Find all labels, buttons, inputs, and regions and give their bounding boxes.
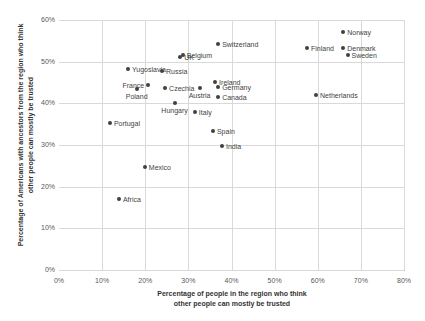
data-point-canada[interactable] (216, 95, 220, 99)
data-point-label-netherlands: Netherlands (320, 92, 358, 99)
data-point-sweden[interactable] (346, 53, 350, 57)
data-point-label-norway: Norway (347, 29, 371, 36)
data-point-mexico[interactable] (143, 165, 147, 169)
y-axis-title-line2: other people can mostly be trusted (26, 10, 36, 260)
data-point-finland[interactable] (305, 46, 309, 50)
data-point-india[interactable] (220, 144, 224, 148)
data-point-label-italy: Italy (199, 109, 212, 116)
x-tick-label: 10% (89, 277, 115, 284)
data-point-ireland[interactable] (213, 80, 217, 84)
x-tick-label: 50% (262, 277, 288, 284)
data-point-spain[interactable] (211, 129, 215, 133)
data-point-netherlands[interactable] (314, 93, 318, 97)
data-point-label-spain: Spain (217, 127, 235, 134)
data-point-austria[interactable] (198, 86, 202, 90)
data-point-label-germany: Germany (222, 84, 251, 91)
data-point-label-russia: Russia (166, 67, 187, 74)
data-point-denmark[interactable] (341, 46, 345, 50)
data-point-hungary[interactable] (173, 101, 177, 105)
data-point-label-switzerland: Switzerland (222, 41, 258, 48)
data-point-label-poland: Poland (126, 93, 148, 100)
x-axis-title-line2: other people can mostly be trusted (59, 299, 405, 309)
gridline-vertical (102, 20, 103, 270)
data-point-germany[interactable] (216, 85, 220, 89)
data-point-label-czechia: Czechia (169, 84, 194, 91)
gridline-vertical (145, 20, 146, 270)
data-point-label-austria: Austria (189, 92, 211, 99)
x-tick-label: 60% (305, 277, 331, 284)
data-point-portugal[interactable] (108, 121, 112, 125)
scatter-chart: NorwayFinlandDenmarkSwedenSwitzerlandBel… (0, 0, 425, 321)
data-point-label-uk: UK (184, 54, 194, 61)
x-axis-title-line1: Percentage of people in the region who t… (59, 289, 405, 299)
data-point-label-canada: Canada (222, 94, 247, 101)
x-axis-title: Percentage of people in the region who t… (59, 289, 405, 309)
data-point-africa[interactable] (117, 197, 121, 201)
y-axis-title: Percentage of Americans with ancestors f… (16, 10, 36, 260)
data-point-poland[interactable] (135, 87, 139, 91)
data-point-czechia[interactable] (163, 86, 167, 90)
data-point-france[interactable] (146, 83, 150, 87)
x-tick-label: 30% (175, 277, 201, 284)
data-point-label-portugal: Portugal (114, 119, 140, 126)
x-tick-label: 20% (132, 277, 158, 284)
data-point-label-india: India (226, 142, 241, 149)
gridline-vertical (318, 20, 319, 270)
data-point-label-hungary: Hungary (161, 107, 187, 114)
data-point-label-france: France (122, 82, 144, 89)
data-point-yugoslavia[interactable] (126, 67, 130, 71)
data-point-italy[interactable] (193, 110, 197, 114)
gridline-horizontal (59, 270, 404, 271)
data-point-label-africa: Africa (123, 196, 141, 203)
data-point-uk[interactable] (178, 55, 182, 59)
data-point-switzerland[interactable] (216, 42, 220, 46)
data-point-norway[interactable] (341, 30, 345, 34)
x-tick-label: 40% (219, 277, 245, 284)
data-point-label-sweden: Sweden (352, 52, 377, 59)
data-point-label-mexico: Mexico (149, 164, 171, 171)
y-tick-label: 0% (29, 266, 55, 273)
data-point-label-finland: Finland (311, 45, 334, 52)
plot-area: NorwayFinlandDenmarkSwedenSwitzerlandBel… (59, 20, 404, 270)
x-tick-label: 80% (391, 277, 417, 284)
gridline-vertical (275, 20, 276, 270)
gridline-vertical (404, 20, 405, 270)
data-point-russia[interactable] (160, 69, 164, 73)
x-tick-label: 70% (348, 277, 374, 284)
y-axis-title-line1: Percentage of Americans with ancestors f… (16, 10, 26, 260)
x-tick-label: 0% (46, 277, 72, 284)
